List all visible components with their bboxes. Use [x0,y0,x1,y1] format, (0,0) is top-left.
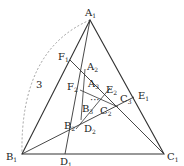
label-E2: E2 [106,84,117,96]
label-A2: A2 [86,61,98,73]
label-F2: F2 [67,81,78,93]
cevian-B1E1 [22,97,134,154]
label-A1: A1 [84,7,96,19]
label-D2: D2 [84,123,96,135]
label-C1: C1 [167,151,178,163]
label-side-3: 3 [36,79,42,90]
label-C3: C3 [120,93,132,105]
label-E1: E1 [138,90,149,102]
geometry-diagram: A1 B1 C1 D1 E1 F1 A2 F2 A3 E2 C3 C2 B3 B… [0,0,184,166]
label-B2: B2 [64,120,75,132]
label-C2: C2 [100,105,112,117]
label-D1: D1 [60,156,72,166]
label-B1: B1 [6,151,17,163]
label-A3: A3 [87,78,99,90]
label-F1: F1 [58,51,69,63]
ellipsis: ··· [90,94,100,105]
